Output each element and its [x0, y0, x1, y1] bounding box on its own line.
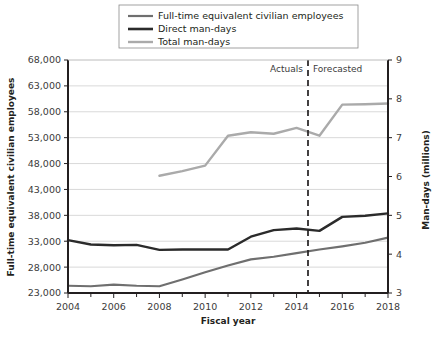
y-tick-label: 33,000 — [28, 236, 61, 247]
y-tick-label: 63,000 — [28, 80, 61, 91]
fiscal-year-line-chart: Full-time equivalent civilian employeesD… — [0, 0, 440, 338]
axis-labels: 23,00028,00033,00038,00043,00048,00053,0… — [28, 54, 402, 312]
y-tick-label: 23,000 — [28, 287, 61, 298]
x-tick-label: 2008 — [147, 301, 171, 312]
y-tick-label: 48,000 — [28, 158, 61, 169]
x-tick-label: 2004 — [56, 301, 80, 312]
x-tick-label: 2006 — [102, 301, 126, 312]
actuals-label: Actuals — [270, 64, 303, 74]
x-tick-label: 2014 — [284, 301, 308, 312]
y2-tick-label: 4 — [396, 249, 402, 260]
y-tick-label: 28,000 — [28, 262, 61, 273]
series-line-2 — [159, 103, 388, 175]
legend-label-0: Full-time equivalent civilian employees — [158, 10, 344, 21]
y2-tick-label: 9 — [396, 54, 402, 65]
y-tick-label: 53,000 — [28, 132, 61, 143]
x-tick-label: 2012 — [239, 301, 263, 312]
forecasted-label: Forecasted — [313, 64, 362, 74]
plot-frame — [68, 60, 388, 293]
x-tick-label: 2010 — [193, 301, 217, 312]
gridlines — [68, 60, 388, 267]
y-tick-label: 58,000 — [28, 106, 61, 117]
series-line-1 — [68, 213, 388, 250]
y-tick-label: 68,000 — [28, 54, 61, 65]
x-axis-title: Fiscal year — [201, 316, 256, 326]
y2-axis-title: Man-days (millions) — [421, 130, 431, 230]
y2-tick-label: 7 — [396, 132, 402, 143]
y2-tick-label: 3 — [396, 287, 402, 298]
chart-annotations: ActualsForecasted — [270, 60, 362, 293]
chart-container: Full-time equivalent civilian employeesD… — [0, 0, 440, 338]
legend-label-1: Direct man-days — [158, 23, 236, 34]
y2-tick-label: 8 — [396, 93, 402, 104]
y2-tick-label: 5 — [396, 210, 402, 221]
data-series — [68, 103, 388, 286]
x-tick-label: 2016 — [330, 301, 354, 312]
y-tick-label: 38,000 — [28, 210, 61, 221]
y-tick-label: 43,000 — [28, 184, 61, 195]
axis-ticks — [64, 60, 392, 298]
chart-legend: Full-time equivalent civilian employeesD… — [119, 5, 358, 48]
y2-tick-label: 6 — [396, 171, 402, 182]
legend-label-2: Total man-days — [157, 36, 230, 47]
x-tick-label: 2018 — [376, 301, 400, 312]
y-axis-title: Full-time equivalent civilian employees — [6, 78, 16, 277]
